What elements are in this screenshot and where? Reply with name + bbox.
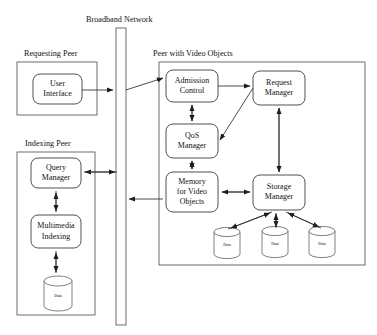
node-user-interface-label-line2: Interface bbox=[43, 89, 72, 98]
node-qos-manager-label-line2: Manager bbox=[178, 141, 207, 150]
diagram-canvas: Requesting Peer User Interface Indexing … bbox=[0, 0, 377, 335]
datastore-index-data-label: Data bbox=[54, 293, 62, 298]
node-request-manager-label-line2: Manager bbox=[265, 88, 294, 97]
datastore-video-data-2-label: Data bbox=[271, 241, 279, 246]
datastore-video-data-2[interactable]: Data bbox=[262, 226, 288, 257]
node-multimedia-indexing-label-line1: Multimedia bbox=[37, 221, 75, 230]
datastore-video-data-1-label: Data bbox=[223, 242, 231, 247]
node-qos-manager-label-line1: QoS bbox=[185, 131, 199, 140]
node-memory-video-objects-label-line2: for Video bbox=[177, 187, 207, 196]
architecture-diagram: Requesting Peer User Interface Indexing … bbox=[0, 0, 377, 335]
node-admission-control-label-line2: Control bbox=[180, 86, 205, 95]
node-user-interface-label-line1: User bbox=[50, 79, 65, 88]
node-query-manager-label-line1: Query bbox=[46, 163, 66, 172]
node-request-manager-label-line1: Request bbox=[266, 78, 293, 87]
network-label: Broadband Network bbox=[86, 15, 154, 24]
node-memory-video-objects-label-line1: Memory bbox=[178, 177, 206, 186]
broadband-network-bar bbox=[116, 28, 126, 325]
node-admission-control-label-line1: Admission bbox=[175, 76, 210, 85]
node-memory-video-objects-label-line3: Objects bbox=[180, 197, 204, 206]
datastore-video-data-1[interactable]: Data bbox=[214, 227, 240, 258]
group-label-video-peer: Peer with Video Objects bbox=[153, 49, 233, 58]
node-multimedia-indexing-label-line2: Indexing bbox=[42, 232, 70, 241]
node-query-manager-label-line2: Manager bbox=[42, 173, 71, 182]
edge-network-to-admission-control bbox=[126, 78, 163, 90]
node-storage-manager-label-line2: Manager bbox=[265, 192, 294, 201]
group-label-requesting-peer: Requesting Peer bbox=[24, 49, 78, 58]
datastore-video-data-3[interactable]: Data bbox=[309, 226, 335, 257]
node-storage-manager-label-line1: Storage bbox=[267, 182, 292, 191]
datastore-video-data-3-label: Data bbox=[318, 241, 326, 246]
datastore-index-data[interactable]: Data bbox=[44, 276, 72, 311]
group-label-indexing-peer: Indexing Peer bbox=[25, 139, 71, 148]
